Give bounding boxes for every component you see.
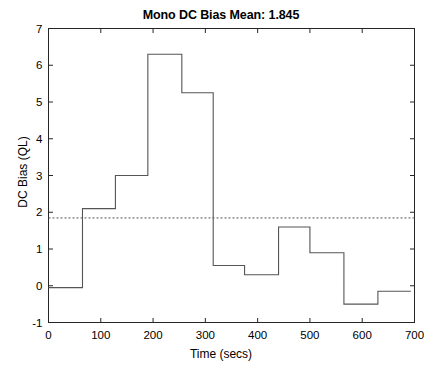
x-axis-tick-labels: 0100200300400500600700: [45, 329, 424, 341]
y-axis-tick-labels: -101234567: [32, 23, 43, 329]
x-tick-label: 500: [300, 329, 319, 341]
x-tick-label: 400: [248, 329, 267, 341]
x-axis-label: Time (secs): [0, 347, 442, 361]
plot-area: 0100200300400500600700 -101234567: [0, 0, 442, 377]
plot-frame: [49, 29, 415, 323]
x-tick-label: 700: [405, 329, 424, 341]
x-tick-label: 0: [45, 329, 51, 341]
x-axis-ticks: [49, 29, 415, 323]
y-tick-label: 3: [36, 170, 42, 182]
data-step-line: [49, 54, 411, 304]
y-tick-label: 1: [36, 243, 42, 255]
chart-figure: Mono DC Bias Mean: 1.845 010020030040050…: [0, 0, 442, 377]
x-tick-label: 300: [196, 329, 215, 341]
y-tick-label: 6: [36, 59, 42, 71]
y-tick-label: 2: [36, 206, 42, 218]
y-tick-label: 0: [36, 280, 42, 292]
y-axis-ticks: [49, 29, 415, 323]
x-tick-label: 600: [353, 329, 372, 341]
x-tick-label: 200: [143, 329, 162, 341]
y-tick-label: 5: [36, 96, 42, 108]
y-axis-label: DC Bias (QL): [16, 102, 30, 242]
y-tick-label: -1: [32, 317, 42, 329]
x-tick-label: 100: [91, 329, 110, 341]
y-tick-label: 4: [36, 133, 43, 145]
y-tick-label: 7: [36, 23, 42, 35]
